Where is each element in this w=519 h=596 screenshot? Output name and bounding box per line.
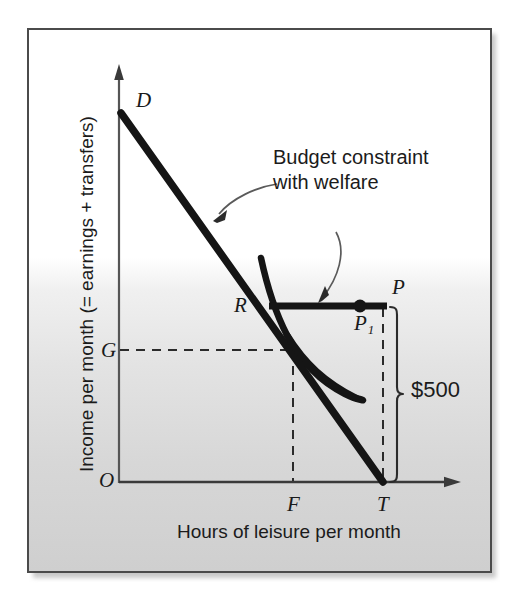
y-axis-arrowhead — [114, 64, 124, 80]
point-label-F: F — [287, 494, 300, 515]
annotation-arrow-to-welfare-line — [318, 232, 341, 303]
figure-frame: D R P P1 G F T O Budget constraint with … — [27, 28, 492, 573]
x-axis-title: Hours of leisure per month — [177, 522, 401, 541]
annotation-budget-constraint-line1: Budget constraint — [273, 146, 429, 170]
axes-group — [114, 64, 461, 487]
origin-label-O: O — [99, 470, 114, 491]
page-top-text-remnant: · · · — [160, 0, 500, 5]
y-axis-title: Income per month (= earnings + transfers… — [77, 116, 96, 472]
point-label-G: G — [101, 340, 116, 361]
point-label-R: R — [234, 295, 247, 316]
point-label-P1-base: P — [354, 311, 367, 335]
point-label-D: D — [136, 90, 151, 111]
point-label-P: P — [392, 277, 405, 298]
annotation-budget-constraint-line2: with welfare — [273, 171, 379, 195]
welfare-amount-label: $500 — [411, 379, 460, 401]
figure-page: · · · — [0, 0, 519, 596]
point-label-P1: P1 — [354, 313, 373, 334]
welfare-amount-brace — [390, 307, 403, 482]
annotation-arrow-to-budget-constraint — [213, 184, 277, 223]
x-axis-arrowhead — [444, 477, 461, 487]
point-label-P1-subscript: 1 — [368, 322, 375, 337]
point-label-T: T — [377, 494, 389, 515]
